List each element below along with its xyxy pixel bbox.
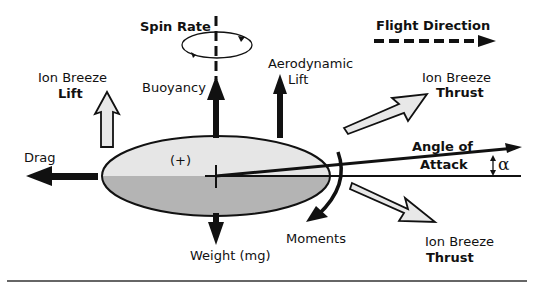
angle-of-attack-label-2: Attack: [420, 157, 468, 172]
drag-arrowhead-icon: [26, 166, 52, 186]
positive-charge-label: (+): [170, 153, 191, 168]
ion-breeze-thrust-top-arrow: [344, 94, 427, 134]
top-tick: [213, 130, 219, 138]
weight-label: Weight (mg): [190, 248, 270, 263]
moments-label: Moments: [286, 231, 346, 246]
ion-breeze-thrust-bottom-label-2: Thrust: [426, 250, 474, 265]
aerodynamic-lift-arrowhead-icon: [273, 74, 287, 94]
ion-breeze-lift-label-2: Lift: [58, 86, 83, 101]
buoyancy-arrowhead-icon: [207, 76, 225, 100]
drag-label: Drag: [24, 150, 56, 165]
ion-breeze-lift-label-1: Ion Breeze: [38, 70, 107, 85]
angle-of-attack-label-1: Angle of: [412, 139, 473, 154]
aerodynamic-lift-label-1: Aerodynamic: [268, 56, 353, 71]
spin-rate-label: Spin Rate: [140, 19, 211, 34]
weight-arrowhead-icon: [208, 222, 224, 245]
aerodynamic-lift-label-2: Lift: [288, 72, 308, 87]
spin-arrowhead-icon: [238, 36, 245, 42]
ion-breeze-thrust-top-label-2: Thrust: [436, 85, 484, 100]
ion-breeze-thrust-top-label-1: Ion Breeze: [422, 70, 491, 85]
flight-direction-arrowhead-icon: [478, 35, 496, 47]
alpha-arrow-up-icon: [490, 155, 496, 161]
aerodynamic-lift-arrow-shaft: [277, 92, 283, 138]
flight-direction-label: Flight Direction: [376, 18, 490, 33]
ion-breeze-lift-arrow: [95, 92, 119, 147]
buoyancy-label: Buoyancy: [142, 80, 206, 95]
spin-arrowhead-icon: [191, 52, 196, 58]
angle-of-attack-arrowhead-icon: [505, 143, 522, 153]
ion-breeze-thrust-bottom-label-1: Ion Breeze: [425, 234, 494, 249]
lifter-force-diagram: Spin Rate Flight Direction Ion Breeze Li…: [0, 0, 537, 287]
alpha-symbol: α: [498, 154, 510, 174]
ion-breeze-thrust-bottom-arrow: [350, 183, 435, 222]
drag-arrow-shaft: [50, 173, 98, 180]
